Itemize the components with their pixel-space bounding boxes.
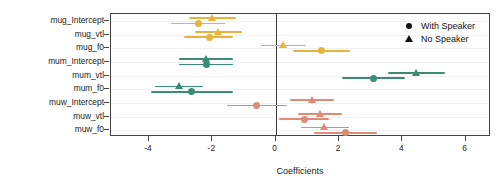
data-point-triangle [279,41,287,48]
data-row [111,96,489,110]
x-axis: -4-20246 [110,136,490,166]
x-axis-tick [465,136,466,141]
x-axis-tick-label: -2 [196,143,226,153]
data-point-circle [318,47,325,54]
legend-label: No Speaker [421,34,469,44]
y-axis-tick [104,116,109,117]
x-axis-tick-label: 2 [323,143,353,153]
y-axis-tick [104,47,109,48]
y-axis-tick [104,20,109,21]
data-point-triangle [214,28,222,35]
y-axis-label-muw-f0: muw_f0 [75,123,104,135]
y-axis-tick [104,129,109,130]
y-axis-tick [104,61,109,62]
data-point-circle [370,75,377,82]
y-axis-label-mum-intercept: mum_Intercept [48,55,104,67]
data-point-circle [195,20,202,27]
data-row [111,69,489,83]
y-axis-label-muw-intercept: muw_Intercept [49,96,104,108]
legend: With Speaker No Speaker [403,19,475,45]
circle-marker-icon [403,23,416,29]
y-axis-label-muw-vtl: muw_vtl [73,110,104,122]
legend-item-with-speaker: With Speaker [403,19,475,32]
y-axis-tick [104,102,109,103]
data-point-triangle [202,55,210,62]
y-axis-label-mug-f0: mug_f0 [76,41,104,53]
y-axis-label-mug-vtl: mug_vtl [75,28,104,40]
data-point-triangle [208,14,216,21]
legend-item-no-speaker: No Speaker [403,32,475,45]
data-point-triangle [320,123,328,130]
y-axis-label-mug-intercept: mug_Intercept [50,14,104,26]
data-row [111,82,489,96]
x-axis-tick [148,136,149,141]
x-axis-tick [275,136,276,141]
x-axis-tick-label: 4 [386,143,416,153]
y-axis-tick [104,34,109,35]
data-point-circle [253,102,260,109]
y-axis-label-mum-f0: mum_f0 [74,82,104,94]
y-axis-labels: mug_Interceptmug_vtlmug_f0mum_Interceptm… [0,13,104,136]
data-row [111,123,489,137]
x-axis-tick [401,136,402,141]
coefficient-plot: mug_Interceptmug_vtlmug_f0mum_Interceptm… [0,0,500,189]
data-point-circle [206,34,213,41]
data-point-circle [301,116,308,123]
x-axis-tick [338,136,339,141]
x-axis-tick-label: -4 [133,143,163,153]
legend-label: With Speaker [421,21,475,31]
x-axis-tick [211,136,212,141]
data-point-triangle [412,69,420,76]
x-axis-tick-label: 0 [260,143,290,153]
y-axis-tick [104,75,109,76]
plot-area: With Speaker No Speaker [110,13,490,136]
y-axis-label-mum-vtl: mum_vtl [72,69,104,81]
data-point-triangle [308,96,316,103]
data-row [111,110,489,124]
data-row [111,55,489,69]
triangle-marker-icon [403,35,416,42]
x-axis-tick-label: 6 [450,143,480,153]
data-point-circle [188,88,195,95]
data-point-triangle [316,110,324,117]
data-point-triangle [175,82,183,89]
x-axis-title: Coefficients [110,166,490,176]
y-axis-tick [104,88,109,89]
